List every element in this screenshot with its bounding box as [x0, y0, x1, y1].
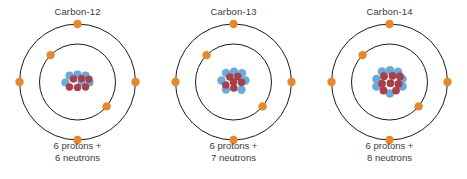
orbit-diagram: [312, 0, 467, 145]
caption-line-protons: 6 protons +: [312, 140, 467, 152]
electron-outer-left: [171, 78, 179, 86]
electron-inner-upper-left: [202, 51, 210, 59]
caption-line-protons: 6 protons +: [0, 140, 155, 152]
nucleus: [61, 70, 93, 91]
electron-outer-left: [15, 78, 23, 86]
caption-line-protons: 6 protons +: [156, 140, 311, 152]
orbit-diagram: [156, 0, 311, 145]
nucleus: [217, 68, 249, 94]
electron-outer-top: [385, 20, 393, 28]
electron-inner-upper-left: [358, 51, 366, 59]
atom-diagram-carbon-14: Carbon-14: [312, 0, 467, 179]
electron-outer-top: [229, 20, 237, 28]
carbon-isotopes-figure: Carbon-12: [0, 0, 467, 179]
caption-line-neutrons: 6 neutrons: [0, 152, 155, 164]
electron-outer-left: [327, 78, 335, 86]
electron-outer-right: [287, 78, 295, 86]
electron-inner-upper-left: [46, 51, 54, 59]
atom-caption: 6 protons + 7 neutrons: [156, 140, 311, 164]
atom-caption: 6 protons + 8 neutrons: [312, 140, 467, 164]
electron-inner-lower-right: [414, 102, 422, 110]
caption-line-neutrons: 8 neutrons: [312, 152, 467, 164]
orbit-diagram: [0, 0, 155, 145]
atom-caption: 6 protons + 6 neutrons: [0, 140, 155, 164]
atom-diagram-carbon-12: Carbon-12: [0, 0, 155, 179]
electron-inner-lower-right: [102, 102, 110, 110]
electron-inner-lower-right: [258, 102, 266, 110]
electron-outer-top: [73, 20, 81, 28]
electron-outer-right: [443, 78, 451, 86]
caption-line-neutrons: 7 neutrons: [156, 152, 311, 164]
nucleus: [372, 66, 407, 98]
electron-outer-right: [131, 78, 139, 86]
atom-diagram-carbon-13: Carbon-13: [156, 0, 311, 179]
